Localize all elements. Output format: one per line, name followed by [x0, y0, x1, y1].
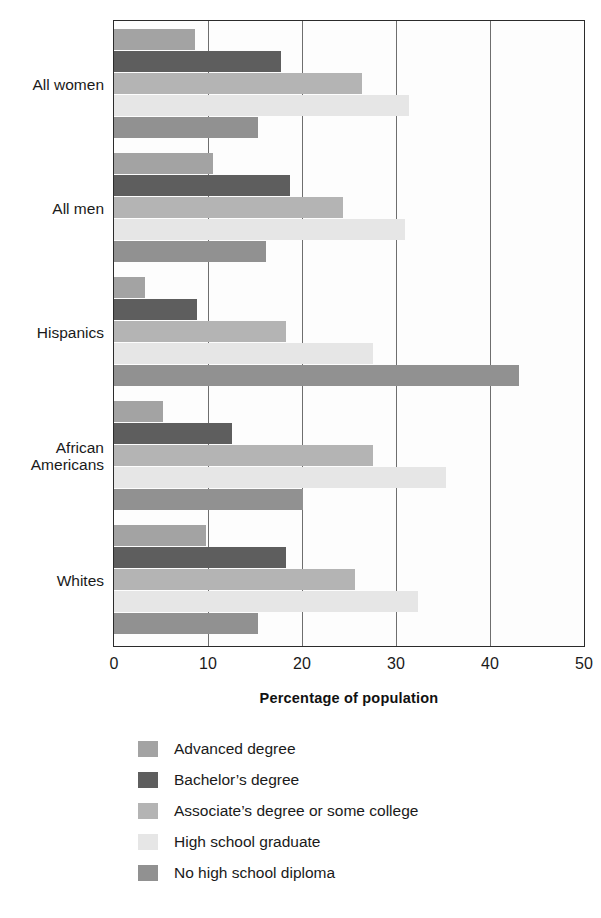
x-tick-50: 50 — [564, 655, 601, 673]
legend-label: High school graduate — [174, 833, 321, 851]
category-label-line: Whites — [0, 572, 104, 589]
bar-group-all-women — [114, 29, 584, 139]
legend-item: Associate’s degree or some college — [138, 795, 558, 826]
legend-swatch-icon — [138, 834, 158, 850]
legend-label: Advanced degree — [174, 740, 296, 758]
bar-hispanics-series-3 — [114, 343, 373, 364]
bar-row — [114, 197, 584, 218]
x-tick-10: 10 — [188, 655, 228, 673]
bar-african-americans-series-4 — [114, 489, 303, 510]
category-label-all-men: All men — [0, 200, 104, 217]
bar-row — [114, 445, 584, 466]
bar-group-hispanics — [114, 277, 584, 387]
bar-row — [114, 613, 584, 634]
legend-swatch-icon — [138, 741, 158, 757]
category-label-line: All women — [0, 76, 104, 93]
bar-hispanics-series-0 — [114, 277, 145, 298]
bar-row — [114, 591, 584, 612]
plot-area — [113, 20, 585, 647]
x-tick-0: 0 — [94, 655, 134, 673]
bar-row — [114, 423, 584, 444]
bar-row — [114, 343, 584, 364]
legend-swatch-icon — [138, 772, 158, 788]
bar-all-men-series-0 — [114, 153, 213, 174]
category-label-line: All men — [0, 200, 104, 217]
bar-whites-series-4 — [114, 613, 258, 634]
bar-all-women-series-4 — [114, 117, 258, 138]
bar-all-men-series-2 — [114, 197, 343, 218]
bar-all-men-series-4 — [114, 241, 266, 262]
legend-label: Bachelor’s degree — [174, 771, 299, 789]
bar-all-men-series-1 — [114, 175, 290, 196]
bar-african-americans-series-3 — [114, 467, 446, 488]
bar-row — [114, 299, 584, 320]
bar-row — [114, 401, 584, 422]
legend-label: No high school diploma — [174, 864, 335, 882]
legend-swatch-icon — [138, 803, 158, 819]
bar-all-men-series-3 — [114, 219, 405, 240]
legend-item: No high school diploma — [138, 857, 558, 888]
bar-row — [114, 489, 584, 510]
category-label-hispanics: Hispanics — [0, 324, 104, 341]
category-label-line: Hispanics — [0, 324, 104, 341]
bar-all-women-series-0 — [114, 29, 195, 50]
bar-whites-series-1 — [114, 547, 286, 568]
bar-row — [114, 219, 584, 240]
legend-item: Bachelor’s degree — [138, 764, 558, 795]
bar-whites-series-0 — [114, 525, 206, 546]
bar-group-whites — [114, 525, 584, 635]
bar-hispanics-series-2 — [114, 321, 286, 342]
legend-swatch-icon — [138, 865, 158, 881]
bar-row — [114, 569, 584, 590]
bar-whites-series-3 — [114, 591, 418, 612]
bar-african-americans-series-2 — [114, 445, 373, 466]
bar-group-all-men — [114, 153, 584, 263]
category-label-line: African — [0, 439, 104, 456]
bar-row — [114, 547, 584, 568]
chart-legend: Advanced degreeBachelor’s degreeAssociat… — [138, 733, 558, 888]
bar-row — [114, 241, 584, 262]
bar-african-americans-series-0 — [114, 401, 163, 422]
bar-row — [114, 365, 584, 386]
category-label-african-americans: AfricanAmericans — [0, 439, 104, 473]
bar-row — [114, 95, 584, 116]
x-tick-40: 40 — [470, 655, 510, 673]
bar-whites-series-2 — [114, 569, 355, 590]
category-label-all-women: All women — [0, 76, 104, 93]
bar-chart-figure: All womenAll menHispanicsAfricanAmerican… — [0, 0, 601, 918]
bar-african-americans-series-1 — [114, 423, 232, 444]
bar-all-women-series-3 — [114, 95, 409, 116]
x-tick-30: 30 — [376, 655, 416, 673]
x-axis-title: Percentage of population — [113, 690, 585, 706]
bar-row — [114, 117, 584, 138]
bar-row — [114, 29, 584, 50]
bar-hispanics-series-4 — [114, 365, 519, 386]
bar-row — [114, 51, 584, 72]
legend-label: Associate’s degree or some college — [174, 802, 418, 820]
bar-row — [114, 277, 584, 298]
bar-all-women-series-2 — [114, 73, 362, 94]
bar-row — [114, 73, 584, 94]
bar-row — [114, 321, 584, 342]
bar-row — [114, 525, 584, 546]
legend-item: High school graduate — [138, 826, 558, 857]
category-label-whites: Whites — [0, 572, 104, 589]
bar-row — [114, 467, 584, 488]
x-tick-20: 20 — [282, 655, 322, 673]
bar-group-african-americans — [114, 401, 584, 511]
legend-item: Advanced degree — [138, 733, 558, 764]
bar-row — [114, 153, 584, 174]
bar-hispanics-series-1 — [114, 299, 197, 320]
bar-row — [114, 175, 584, 196]
category-label-line: Americans — [0, 456, 104, 473]
bar-all-women-series-1 — [114, 51, 281, 72]
